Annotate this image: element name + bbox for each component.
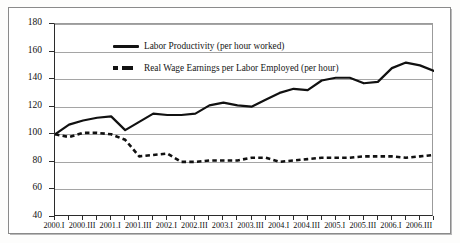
x-axis-tick — [307, 216, 308, 220]
x-axis-tick — [405, 216, 406, 220]
y-axis-tick-label: 140 — [9, 73, 42, 83]
x-axis-tick-label: 2002.I — [156, 221, 177, 230]
x-axis-tick — [419, 216, 420, 220]
series-line-real-wage-earnings — [55, 133, 434, 162]
y-axis-tick-label: 160 — [9, 46, 42, 56]
y-axis-tick-label: 100 — [9, 128, 42, 138]
x-axis-tick-label: 2003.III — [237, 221, 264, 230]
series-layer — [55, 24, 434, 217]
x-axis-tick-label: 2005.III — [350, 221, 377, 230]
x-axis-tick — [279, 216, 280, 220]
x-axis-tick — [391, 216, 392, 220]
y-axis-tick — [49, 51, 54, 52]
x-axis-tick — [265, 216, 266, 220]
x-axis-tick-label: 2004.I — [268, 221, 289, 230]
x-axis-tick — [82, 216, 83, 220]
x-axis-tick-label: 2002.III — [181, 221, 208, 230]
chart-figure: Labor Productivity (per hour worked) Rea… — [0, 0, 460, 243]
x-axis-tick — [377, 216, 378, 220]
y-axis-tick-label: 120 — [9, 101, 42, 111]
y-axis-tick-label: 60 — [9, 183, 42, 193]
x-axis-tick — [349, 216, 350, 220]
x-axis-tick-label: 2003.I — [212, 221, 233, 230]
y-axis-tick — [49, 161, 54, 162]
x-axis-tick — [110, 216, 111, 220]
y-axis-tick — [49, 133, 54, 134]
x-axis-tick-label: 2001.III — [125, 221, 152, 230]
x-axis-tick — [208, 216, 209, 220]
x-axis-tick — [222, 216, 223, 220]
x-axis-tick — [236, 216, 237, 220]
x-axis-tick-label: 2001.I — [100, 221, 121, 230]
x-axis-tick-label: 2004.III — [293, 221, 320, 230]
plot-area: Labor Productivity (per hour worked) Rea… — [54, 23, 433, 216]
x-axis-tick-label: 2006.I — [380, 221, 401, 230]
x-axis-tick — [68, 216, 69, 220]
x-axis-tick — [166, 216, 167, 220]
figure-frame: Labor Productivity (per hour worked) Rea… — [8, 7, 451, 234]
x-axis-tick — [138, 216, 139, 220]
x-axis-tick — [96, 216, 97, 220]
y-axis-tick-label: 180 — [9, 18, 42, 28]
x-axis-tick — [321, 216, 322, 220]
x-axis-tick — [194, 216, 195, 220]
y-axis-tick-label: 80 — [9, 156, 42, 166]
x-axis-tick — [180, 216, 181, 220]
y-axis-tick — [49, 23, 54, 24]
y-axis-tick — [49, 106, 54, 107]
y-axis-tick — [49, 78, 54, 79]
x-axis-tick — [152, 216, 153, 220]
y-axis-tick — [49, 188, 54, 189]
x-axis-tick — [433, 216, 434, 220]
series-line-labor-productivity — [55, 63, 434, 135]
x-axis-tick — [363, 216, 364, 220]
x-axis-tick-label: 2006.III — [406, 221, 433, 230]
x-axis-tick-label: 2000.I — [43, 221, 64, 230]
x-axis-tick — [251, 216, 252, 220]
x-axis-tick — [124, 216, 125, 220]
y-axis-tick-label: 40 — [9, 211, 42, 221]
x-axis-tick — [335, 216, 336, 220]
x-axis-tick — [293, 216, 294, 220]
x-axis-tick-label: 2005.I — [324, 221, 345, 230]
x-axis-tick-label: 2000.III — [69, 221, 96, 230]
x-axis-tick — [54, 216, 55, 220]
